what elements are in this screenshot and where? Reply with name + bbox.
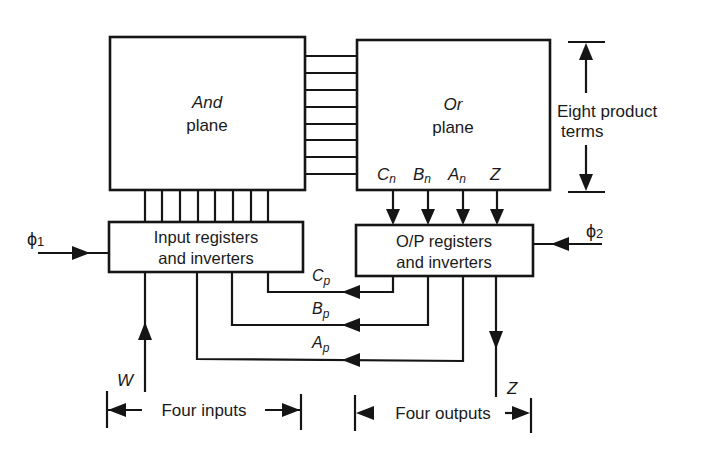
arrow-down-icon bbox=[490, 209, 504, 225]
product-term-lines bbox=[305, 56, 357, 174]
phi2-clock-input: ϕ2 bbox=[533, 221, 603, 251]
arrow-down-icon bbox=[579, 174, 593, 191]
and-plane-title: And bbox=[191, 93, 223, 112]
four-inputs-label: Four inputs bbox=[161, 401, 246, 420]
product-terms-dimension: Eight product terms bbox=[557, 42, 657, 192]
four-outputs-dimension: Four outputs bbox=[355, 395, 531, 433]
input-registers-line2: and inverters bbox=[158, 249, 253, 267]
arrow-up-icon bbox=[579, 43, 593, 60]
output-registers-line2: and inverters bbox=[396, 253, 491, 271]
arrow-left-icon bbox=[342, 353, 360, 367]
input-registers-block: Input registers and inverters bbox=[109, 222, 303, 272]
arrow-left-icon bbox=[342, 318, 360, 332]
arrow-up-icon bbox=[138, 322, 152, 340]
or-plane-title: Or bbox=[444, 95, 464, 114]
phi1-label: ϕ1 bbox=[27, 229, 44, 249]
input-registers-line1: Input registers bbox=[154, 228, 259, 246]
four-inputs-dimension: Four inputs bbox=[107, 391, 301, 430]
phi2-label: ϕ2 bbox=[586, 221, 603, 241]
arrow-left-icon bbox=[551, 237, 569, 251]
pla-block-diagram: And plane Or plane Cn Bn An Z Eight prod… bbox=[0, 0, 702, 452]
output-label-z: Z bbox=[489, 165, 501, 184]
product-terms-label-line2: terms bbox=[561, 122, 604, 141]
output-registers-block: O/P registers and inverters bbox=[356, 225, 533, 276]
w-label: W bbox=[117, 371, 135, 390]
w-input-signal: W bbox=[117, 272, 152, 392]
four-outputs-label: Four outputs bbox=[395, 404, 490, 423]
feedback-label-bp: Bp bbox=[312, 300, 330, 321]
z-label: Z bbox=[506, 379, 518, 398]
product-terms-label-line1: Eight product bbox=[557, 102, 657, 121]
and-plane-block: And plane bbox=[110, 37, 305, 190]
arrow-right-icon bbox=[512, 406, 530, 420]
arrow-down-icon bbox=[489, 331, 503, 349]
arrow-down-icon bbox=[456, 209, 470, 225]
or-plane-block: Or plane Cn Bn An Z bbox=[357, 40, 550, 190]
arrow-left-icon bbox=[356, 406, 374, 420]
arrow-left-icon bbox=[108, 403, 126, 417]
and-plane-subtitle: plane bbox=[186, 116, 228, 135]
phi1-clock-input: ϕ1 bbox=[27, 229, 109, 260]
feedback-label-cp: Cp bbox=[312, 267, 331, 288]
arrow-down-icon bbox=[386, 209, 400, 225]
or-to-output-arrows bbox=[386, 190, 504, 225]
feedback-label-ap: Ap bbox=[311, 334, 330, 355]
or-plane-subtitle: plane bbox=[432, 118, 474, 137]
and-plane-input-lines bbox=[145, 189, 268, 222]
arrow-right-icon bbox=[282, 403, 300, 417]
arrow-right-icon bbox=[72, 246, 90, 260]
output-registers-line1: O/P registers bbox=[396, 232, 492, 250]
z-output-signal: Z bbox=[489, 276, 518, 398]
arrow-down-icon bbox=[421, 209, 435, 225]
arrow-left-icon bbox=[342, 285, 360, 299]
